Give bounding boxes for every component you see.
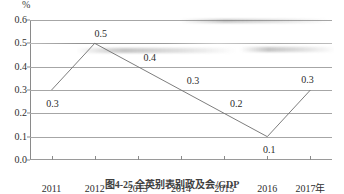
data-point-label: 0.3 — [187, 76, 200, 86]
y-axis-tick-label: 0.3 — [15, 85, 28, 95]
y-axis-tick-label: 0.4 — [15, 62, 28, 72]
data-point-label: 0.1 — [263, 145, 276, 155]
data-point-label: 0.3 — [46, 99, 59, 109]
y-axis-tick-label: 0.6 — [15, 15, 28, 25]
data-point-label: 0.3 — [301, 75, 314, 85]
plot-area: 0.60.50.40.30.20.10.0 201120122013201420… — [30, 20, 332, 160]
y-axis-unit-label: % — [22, 0, 30, 10]
y-axis-tick-label: 0.2 — [15, 108, 28, 118]
figure-caption: 图4-25 全英别表别政及会/GDP — [0, 179, 344, 191]
figure-container: % 0.60.50.40.30.20.10.0 2011201220132014… — [0, 0, 344, 194]
y-axis-tick-label: 0.1 — [15, 132, 28, 142]
data-point-label: 0.2 — [230, 99, 243, 109]
y-axis-tick-label: 0.5 — [15, 38, 28, 48]
y-axis-tick-label: 0.0 — [15, 155, 28, 165]
data-point-label: 0.5 — [94, 29, 107, 39]
data-point-label: 0.4 — [144, 53, 157, 63]
series-line — [30, 20, 332, 160]
